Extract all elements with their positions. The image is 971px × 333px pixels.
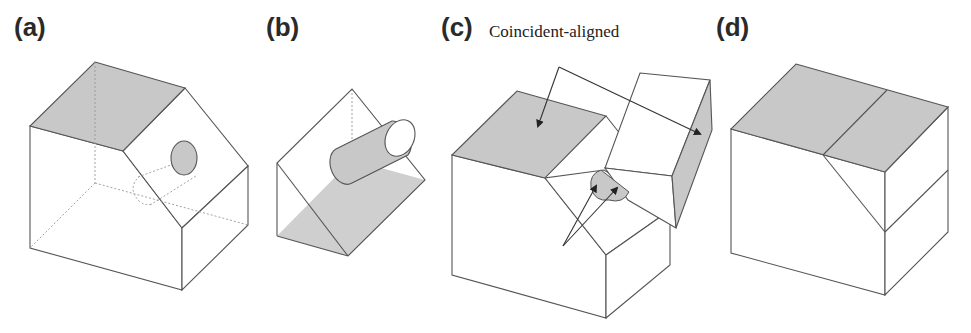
hole-icon [171,141,197,175]
panel-d-shape [731,64,948,295]
diagram-canvas [0,0,971,333]
panel-c-shape [452,67,712,318]
panel-a-shape [30,62,248,290]
panel-b-shape [277,89,425,256]
